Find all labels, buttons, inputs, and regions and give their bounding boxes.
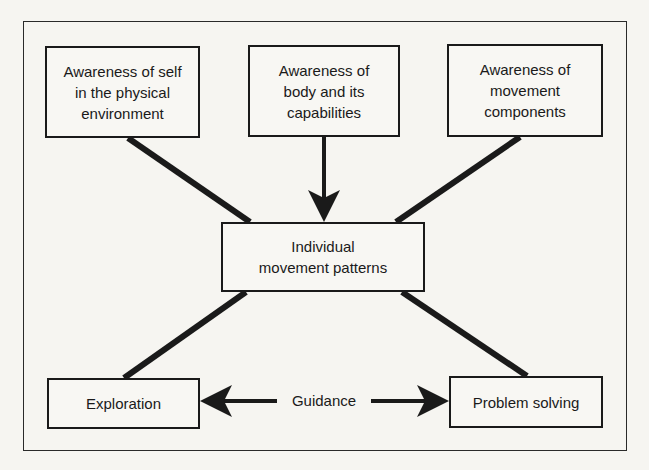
edge-self-to-center [128,138,250,222]
node-movement-components: Awareness of movement components [447,44,603,137]
edge-components-to-center [396,137,520,222]
guidance-label: Guidance [277,391,371,411]
node-exploration: Exploration [47,378,200,429]
edge-center-to-exploration [124,292,246,378]
edge-center-to-problem-solving [402,292,527,376]
node-self-environment: Awareness of self in the physical enviro… [45,46,200,138]
node-problem-solving: Problem solving [449,376,603,428]
node-individual-movement-patterns: Individual movement patterns [221,222,425,292]
node-body-capabilities: Awareness of body and its capabilities [248,45,400,137]
